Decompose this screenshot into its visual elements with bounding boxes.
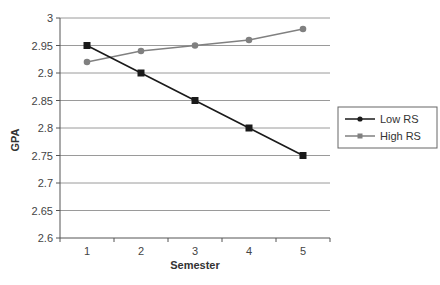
square-marker-icon — [192, 97, 199, 104]
y-tick-label: 2.95 — [32, 40, 53, 52]
y-tick-label: 2.9 — [38, 67, 53, 79]
y-tick-label: 2.7 — [38, 177, 53, 189]
legend-label: High RS — [380, 130, 421, 142]
circle-marker-icon — [246, 37, 253, 44]
circle-marker-icon — [192, 42, 199, 49]
legend-label: Low RS — [380, 113, 419, 125]
x-tick-label: 1 — [84, 245, 90, 257]
y-tick-label: 2.65 — [32, 205, 53, 217]
y-tick-label: 2.75 — [32, 150, 53, 162]
x-tick-label: 4 — [246, 245, 252, 257]
legend-square-marker-icon — [358, 134, 363, 139]
circle-marker-icon — [84, 59, 91, 66]
square-marker-icon — [246, 125, 253, 132]
y-tick-label: 3 — [47, 12, 53, 24]
square-marker-icon — [300, 152, 307, 159]
y-axis-ticks: 2.62.652.72.752.82.852.92.953 — [32, 12, 60, 244]
x-tick-label: 3 — [192, 245, 198, 257]
gpa-line-chart: 2.62.652.72.752.82.852.92.953 12345 GPA … — [0, 0, 440, 285]
x-axis-title: Semester — [170, 259, 220, 271]
x-tick-label: 5 — [300, 245, 306, 257]
y-tick-label: 2.6 — [38, 232, 53, 244]
y-tick-label: 2.8 — [38, 122, 53, 134]
circle-marker-icon — [138, 48, 145, 55]
x-axis-ticks: 12345 — [60, 238, 330, 257]
square-marker-icon — [84, 42, 91, 49]
legend: Low RS High RS — [338, 107, 437, 148]
legend-circle-marker-icon — [357, 116, 362, 121]
circle-marker-icon — [300, 26, 307, 33]
y-axis-title: GPA — [9, 128, 21, 151]
square-marker-icon — [138, 70, 145, 77]
x-tick-label: 2 — [138, 245, 144, 257]
y-tick-label: 2.85 — [32, 95, 53, 107]
